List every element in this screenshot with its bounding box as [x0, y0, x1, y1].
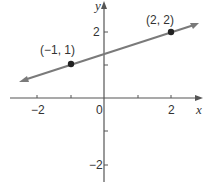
y-tick-label: 2 — [93, 25, 100, 39]
line-arrow-left-icon — [19, 76, 29, 82]
y-axis-arrow-icon — [101, 1, 107, 9]
y-axis-label: y — [93, 0, 101, 13]
x-axis-label: x — [195, 102, 202, 117]
point-label: (−1, 1) — [40, 43, 75, 57]
x-tick-label: 2 — [168, 103, 175, 117]
data-point — [168, 29, 174, 35]
x-tick-label: 0 — [96, 103, 103, 117]
point-label: (2, 2) — [146, 13, 174, 27]
x-axis-arrow-icon — [195, 95, 203, 101]
y-tick-label: −2 — [89, 158, 103, 172]
data-point — [68, 61, 74, 67]
x-tick-label: −2 — [31, 103, 45, 117]
coordinate-plane: −2 0 2 2 −2 x y (−1, 1) (2, 2) — [0, 0, 208, 185]
